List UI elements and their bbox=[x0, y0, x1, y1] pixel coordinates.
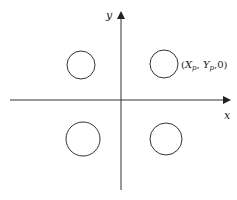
circle-bottom-left bbox=[66, 122, 100, 156]
x-axis-label: x bbox=[224, 109, 231, 122]
circle-bottom-right bbox=[150, 123, 182, 155]
coordinate-diagram: y x (Xp, Yp,0) bbox=[0, 0, 237, 200]
diagram-canvas: y x (Xp, Yp,0) bbox=[0, 0, 237, 200]
point-label: (Xp, Yp,0) bbox=[181, 59, 228, 72]
circle-top-right bbox=[150, 50, 178, 78]
y-axis-label: y bbox=[105, 9, 113, 22]
circle-top-left bbox=[67, 51, 95, 79]
